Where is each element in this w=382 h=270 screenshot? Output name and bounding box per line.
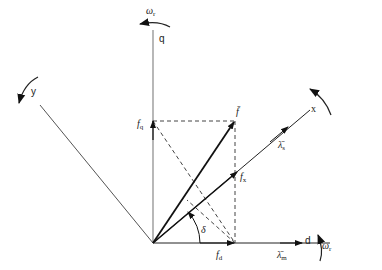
fx-vector [153,172,237,243]
phasor-diagram [0,0,382,270]
f-vector [153,122,234,243]
q-rotation-label: ωr [146,6,155,18]
lambda-s-label: λ̄s [278,140,285,152]
delta-arc [188,212,200,243]
fx-label: fx [240,172,246,184]
d-rotation-label: ωr [322,241,331,253]
delta-label: δ [201,225,206,235]
fd-label: fd [216,250,222,262]
d-axis-label: d [305,236,311,246]
lambda-m-label: λ̄m [277,250,287,262]
q-axis-label: q [159,34,165,44]
x-axis-label: x [311,104,316,114]
q-rotation-arrow [140,23,170,27]
f-vector-label: f̄ [236,107,239,117]
y-axis-label: y [31,87,36,97]
fq-label: fq [137,119,143,131]
